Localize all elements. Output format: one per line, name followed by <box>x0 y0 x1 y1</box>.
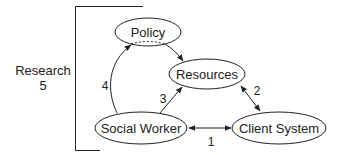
node-resources: Resources <box>169 59 245 89</box>
node-social-worker: Social Worker <box>95 112 187 144</box>
edge-label-3: 3 <box>160 92 167 106</box>
node-label-client-system: Client System <box>239 121 319 136</box>
node-policy: Policy <box>115 18 181 46</box>
edge-label-2: 2 <box>254 84 261 98</box>
node-label-resources: Resources <box>176 67 239 82</box>
node-label-social-worker: Social Worker <box>101 121 182 136</box>
node-label-policy: Policy <box>131 25 166 40</box>
diagram-canvas: Research 5 4 3 2 1 Policy Resources Soci… <box>0 0 345 155</box>
edge-social-worker-to-policy <box>111 45 131 113</box>
bracket-label-research: Research <box>15 63 71 78</box>
edge-label-4: 4 <box>102 79 109 93</box>
edge-policy-to-resources <box>165 44 183 61</box>
edge-label-1: 1 <box>208 135 215 149</box>
bracket-label-number: 5 <box>39 78 46 93</box>
node-client-system: Client System <box>232 112 326 144</box>
